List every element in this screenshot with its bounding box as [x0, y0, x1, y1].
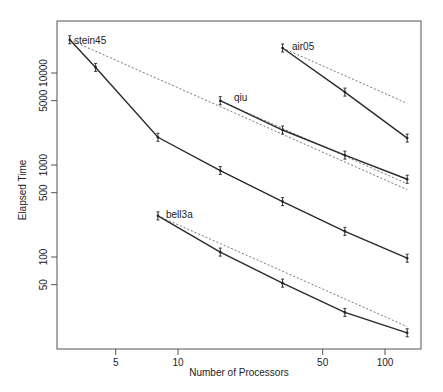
x-tick-label: 50 — [317, 357, 329, 368]
x-tick-label: 5 — [113, 357, 119, 368]
y-tick-label: 50 — [38, 279, 49, 291]
series-label-qiu: qiu — [234, 92, 247, 103]
series-group: stein45air05qiubell3a — [68, 35, 408, 337]
series-label-air05: air05 — [292, 41, 315, 52]
data-point — [344, 154, 347, 157]
data-point — [68, 38, 71, 41]
data-point — [219, 99, 222, 102]
data-point — [406, 331, 409, 334]
series-bell3a: bell3a — [156, 209, 408, 337]
y-tick-label: 500 — [38, 184, 49, 201]
data-point — [406, 257, 409, 260]
plot-frame — [57, 21, 421, 349]
data-point — [219, 251, 222, 254]
data-point — [157, 215, 160, 218]
data-point — [344, 91, 347, 94]
x-tick-label: 100 — [377, 357, 394, 368]
data-point — [281, 200, 284, 203]
data-line — [70, 40, 407, 258]
x-axis-title: Number of Processors — [189, 367, 288, 378]
chart-canvas: 501005001000500010000 51050100 stein45ai… — [0, 0, 443, 392]
x-axis: 51050100 — [113, 349, 394, 368]
data-point — [344, 230, 347, 233]
y-tick-label: 100 — [38, 248, 49, 265]
data-point — [281, 129, 284, 132]
data-point — [157, 136, 160, 139]
ideal-speedup-line — [70, 40, 407, 190]
data-line — [158, 216, 407, 333]
series-qiu: qiu — [219, 92, 409, 184]
y-tick-label: 5000 — [38, 89, 49, 112]
data-point — [281, 47, 284, 50]
data-line — [220, 101, 407, 180]
data-point — [406, 178, 409, 181]
y-axis: 501005001000500010000 — [38, 59, 57, 291]
series-label-bell3a: bell3a — [166, 209, 193, 220]
series-stein45: stein45 — [68, 35, 408, 262]
data-point — [94, 66, 97, 69]
y-tick-label: 1000 — [38, 153, 49, 176]
y-tick-label: 10000 — [38, 59, 49, 87]
data-point — [406, 137, 409, 140]
ideal-speedup-line — [158, 216, 407, 327]
data-point — [344, 311, 347, 314]
series-label-stein45: stein45 — [74, 35, 107, 46]
y-axis-title: Elapsed Time — [17, 159, 28, 220]
x-tick-label: 10 — [172, 357, 184, 368]
data-point — [281, 282, 284, 285]
series-air05: air05 — [281, 41, 409, 142]
data-point — [219, 169, 222, 172]
